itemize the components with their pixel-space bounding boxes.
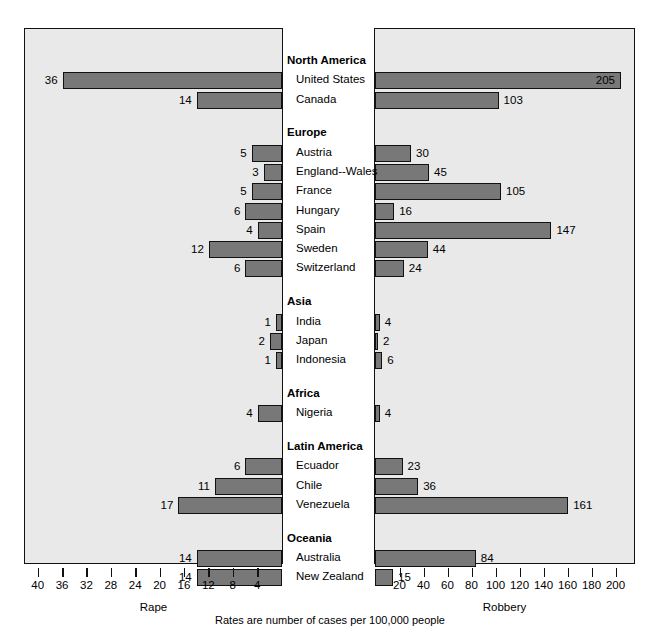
- category-item-label: Nigeria: [283, 404, 374, 421]
- bar-value-rape: 5: [240, 183, 246, 200]
- category-item-label: Sweden: [283, 240, 374, 257]
- bar-robbery: [375, 260, 404, 277]
- bar-robbery: [375, 333, 378, 350]
- bar-robbery: [375, 314, 380, 331]
- rape-panel: 3614535641261214611171414: [24, 28, 283, 564]
- category-item-label: India: [283, 313, 374, 330]
- axis-tick: [520, 568, 522, 577]
- bar-rape: [245, 203, 282, 220]
- axis-tick: [86, 568, 88, 577]
- bar-robbery: [375, 458, 403, 475]
- bar-value-rape: 6: [234, 260, 240, 277]
- bar-value-robbery: 23: [408, 458, 421, 475]
- crime-rate-paired-bar-chart: 3614535641261214611171414 20510330451051…: [0, 0, 660, 638]
- bar-robbery: [375, 203, 394, 220]
- bar-robbery: [375, 183, 501, 200]
- bar-value-robbery: 161: [573, 497, 592, 514]
- axis-tick: [257, 568, 259, 577]
- bar-rape: [252, 183, 282, 200]
- bar-value-robbery: 16: [399, 203, 412, 220]
- robbery-panel: 2051033045105161474424426423361618415: [374, 28, 635, 564]
- category-group-heading: Oceania: [283, 530, 374, 547]
- bar-robbery: [375, 72, 621, 89]
- axis-tick: [135, 568, 137, 577]
- category-item-label: Hungary: [283, 202, 374, 219]
- bar-value-robbery: 36: [423, 478, 436, 495]
- axis-tick: [233, 568, 235, 577]
- bar-rape: [264, 164, 282, 181]
- bar-value-robbery: 2: [383, 333, 389, 350]
- bar-robbery: [375, 145, 411, 162]
- category-item-label: France: [283, 182, 374, 199]
- bar-value-rape: 6: [234, 203, 240, 220]
- axis-tick: [592, 568, 594, 577]
- bar-value-robbery: 4: [385, 314, 391, 331]
- bar-rape: [245, 260, 282, 277]
- category-label-column: North AmericaUnited StatesCanadaEuropeAu…: [283, 28, 374, 564]
- rape-axis: 403632282420161284: [24, 568, 283, 578]
- bar-value-rape: 4: [246, 222, 252, 239]
- robbery-axis-title: Robbery: [374, 600, 635, 614]
- bar-rape: [276, 352, 282, 369]
- bar-robbery: [375, 497, 568, 514]
- axis-tick: [111, 568, 113, 577]
- category-item-label: Venezuela: [283, 496, 374, 513]
- bar-robbery: [375, 550, 476, 567]
- bar-value-robbery: 84: [481, 550, 494, 567]
- bar-value-robbery: 45: [434, 164, 447, 181]
- bar-rape: [197, 550, 282, 567]
- bar-value-robbery: 30: [416, 145, 429, 162]
- bar-rape: [258, 405, 282, 422]
- robbery-axis: 20406080100120140160180200: [374, 568, 635, 578]
- bar-value-robbery: 147: [556, 222, 575, 239]
- category-item-label: Australia: [283, 549, 374, 566]
- category-item-label: Spain: [283, 221, 374, 238]
- axis-tick-label: 200: [601, 579, 631, 592]
- bar-value-robbery: 44: [433, 241, 446, 258]
- bar-value-robbery: 205: [593, 72, 615, 89]
- category-group-heading: Latin America: [283, 438, 374, 455]
- axis-tick: [568, 568, 570, 577]
- chart-footnote: Rates are number of cases per 100,000 pe…: [0, 614, 660, 626]
- bar-value-robbery: 6: [387, 352, 393, 369]
- axis-tick: [208, 568, 210, 577]
- bar-rape: [209, 241, 282, 258]
- bar-rape: [178, 497, 282, 514]
- category-item-label: United States: [283, 71, 374, 88]
- bar-value-rape: 36: [45, 72, 58, 89]
- category-group-heading: North America: [283, 52, 374, 69]
- category-item-label: Japan: [283, 332, 374, 349]
- bar-robbery: [375, 92, 499, 109]
- bar-value-rape: 14: [179, 550, 192, 567]
- category-group-heading: Asia: [283, 293, 374, 310]
- bar-rape: [276, 314, 282, 331]
- bar-value-rape: 12: [191, 241, 204, 258]
- axis-tick: [424, 568, 426, 577]
- bar-rape: [197, 92, 282, 109]
- bar-value-rape: 4: [246, 405, 252, 422]
- axis-tick: [616, 568, 618, 577]
- bar-robbery: [375, 405, 380, 422]
- axis-tick: [400, 568, 402, 577]
- bar-rape: [258, 222, 282, 239]
- category-item-label: Indonesia: [283, 351, 374, 368]
- bar-value-rape: 3: [252, 164, 258, 181]
- bar-value-rape: 14: [179, 92, 192, 109]
- category-item-label: Switzerland: [283, 259, 374, 276]
- bar-value-rape: 17: [161, 497, 174, 514]
- axis-tick: [472, 568, 474, 577]
- bar-robbery: [375, 352, 382, 369]
- bar-value-rape: 5: [240, 145, 246, 162]
- bar-robbery: [375, 222, 551, 239]
- axis-tick: [448, 568, 450, 577]
- bar-value-rape: 6: [234, 458, 240, 475]
- bar-value-robbery: 4: [385, 405, 391, 422]
- category-item-label: Canada: [283, 91, 374, 108]
- bar-rape: [215, 478, 282, 495]
- bar-value-robbery: 105: [506, 183, 525, 200]
- bar-rape: [245, 458, 282, 475]
- bar-value-robbery: 103: [504, 92, 523, 109]
- bar-robbery: [375, 164, 429, 181]
- bar-value-rape: 1: [265, 314, 271, 331]
- axis-tick: [62, 568, 64, 577]
